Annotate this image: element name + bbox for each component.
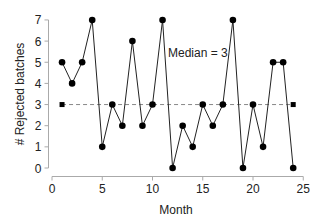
median-line xyxy=(60,102,296,107)
data-point xyxy=(260,144,267,151)
data-point xyxy=(240,165,247,172)
data-point xyxy=(149,101,156,108)
median-annotation: Median = 3 xyxy=(168,46,228,60)
y-tick-label: 5 xyxy=(35,56,42,70)
data-point xyxy=(280,59,287,66)
data-point xyxy=(69,80,76,87)
y-tick-label: 0 xyxy=(35,162,42,176)
data-point xyxy=(159,17,166,24)
data-point xyxy=(89,17,96,24)
data-point xyxy=(109,101,116,108)
x-tick-label: 5 xyxy=(99,182,106,196)
median-end-marker xyxy=(60,102,65,107)
data-point xyxy=(210,122,217,129)
data-point xyxy=(250,101,257,108)
data-point xyxy=(179,122,186,129)
data-point xyxy=(230,17,237,24)
data-point xyxy=(59,59,66,66)
x-tick-label: 25 xyxy=(297,182,311,196)
data-point xyxy=(119,122,126,129)
y-tick-label: 4 xyxy=(35,77,42,91)
data-point xyxy=(129,38,136,45)
x-axis-label: Month xyxy=(159,203,192,217)
data-point xyxy=(99,144,106,151)
data-point xyxy=(169,165,176,172)
data-series xyxy=(59,17,297,172)
y-tick-label: 7 xyxy=(35,13,42,27)
x-tick-label: 0 xyxy=(49,182,56,196)
data-point xyxy=(220,101,227,108)
series-line xyxy=(62,20,293,168)
x-tick-label: 15 xyxy=(196,182,210,196)
data-point xyxy=(189,144,196,151)
x-tick-label: 20 xyxy=(246,182,260,196)
data-point xyxy=(290,165,297,172)
data-point xyxy=(270,59,277,66)
data-point xyxy=(139,122,146,129)
y-tick-label: 2 xyxy=(35,119,42,133)
data-point xyxy=(79,59,86,66)
y-axis-label: # Rejected batches xyxy=(13,43,27,146)
median-end-marker xyxy=(291,102,296,107)
x-tick-label: 10 xyxy=(146,182,160,196)
run-chart: 012345670510152025 Median = 3 Month # Re… xyxy=(0,0,324,223)
y-tick-label: 3 xyxy=(35,98,42,112)
data-point xyxy=(199,101,206,108)
y-tick-label: 6 xyxy=(35,35,42,49)
y-tick-label: 1 xyxy=(35,140,42,154)
